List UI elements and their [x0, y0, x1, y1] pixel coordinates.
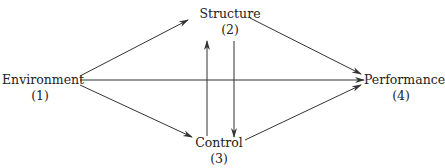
node-environment-number: (1) — [2, 89, 78, 103]
node-control-label: Control — [193, 136, 245, 150]
node-control: Control (3) — [193, 136, 245, 166]
edge-environment-structure — [80, 20, 188, 76]
edge-environment-control — [80, 85, 192, 137]
node-environment: Environment (1) — [2, 73, 78, 103]
node-structure: Structure (2) — [191, 7, 269, 37]
node-control-number: (3) — [193, 152, 245, 166]
node-environment-label: Environment — [2, 73, 78, 87]
node-performance-label: Performance — [364, 73, 438, 87]
node-structure-label: Structure — [191, 7, 269, 21]
node-performance-number: (4) — [364, 89, 438, 103]
edge-control-performance — [245, 85, 361, 140]
node-structure-number: (2) — [191, 23, 269, 37]
node-performance: Performance (4) — [364, 73, 438, 103]
